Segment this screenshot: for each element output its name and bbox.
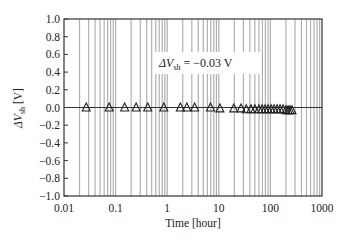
y-tick-label: 0.6	[46, 48, 61, 60]
y-tick-label: −0.8	[39, 172, 60, 184]
annotation-text: ΔVsh = −0.03 V	[158, 56, 233, 72]
annotation-subscript: sh	[173, 63, 180, 72]
annotation-box: ΔVsh = −0.03 V	[155, 52, 261, 74]
y-tick-label: 1.0	[46, 13, 61, 25]
y-tick-label: 0.2	[46, 84, 61, 96]
x-tick-label: 100	[262, 202, 280, 214]
y-axis-title: ΔVsh [V]	[12, 88, 27, 129]
x-tick-label: 1	[164, 202, 170, 214]
x-tick-label: 0.1	[108, 202, 123, 214]
x-axis-ticks: 0.010.11101001000	[54, 202, 334, 214]
y-tick-label: −0.6	[39, 155, 60, 167]
y-axis-title-suffix: [V]	[12, 88, 24, 107]
x-tick-label: 1000	[311, 202, 334, 214]
x-tick-label: 10	[213, 202, 225, 214]
x-tick-label: 0.01	[54, 202, 74, 214]
y-tick-label: −0.4	[39, 137, 60, 149]
chart: 1.00.80.60.40.20.0−0.2−0.4−0.6−0.8−1.0 0…	[0, 0, 350, 241]
y-tick-label: 0.0	[46, 102, 61, 114]
y-tick-label: 0.4	[46, 66, 61, 78]
y-tick-label: −0.2	[39, 119, 60, 131]
annotation-suffix: = −0.03 V	[181, 56, 233, 70]
y-axis-title-subscript: sh	[18, 107, 27, 114]
x-axis-title: Time [hour]	[165, 217, 220, 229]
data-markers	[82, 103, 296, 114]
y-tick-label: −1.0	[39, 190, 60, 202]
y-tick-label: 0.8	[46, 31, 61, 43]
